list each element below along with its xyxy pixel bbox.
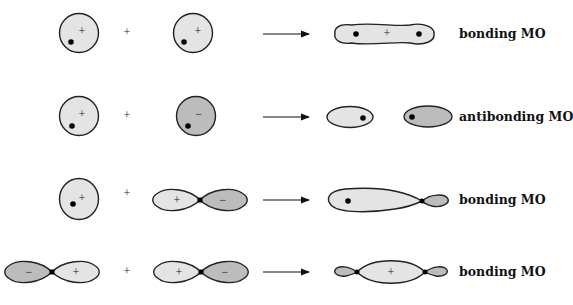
phase-sign: + xyxy=(79,107,86,121)
bonding-mo-shape: + xyxy=(335,261,448,284)
s-orbital-right: − xyxy=(177,97,216,136)
mo-label-row-3: bonding MO xyxy=(459,192,546,207)
nucleus-icon xyxy=(181,39,187,45)
nucleus-icon xyxy=(199,270,204,275)
phase-sign: + xyxy=(384,26,391,40)
s-orbital-left: + xyxy=(60,179,99,220)
row-1: + + + + xyxy=(60,14,435,53)
plus-operator: + xyxy=(124,25,131,39)
nucleus-icon xyxy=(345,198,351,204)
mo-label-row-2: antibonding MO xyxy=(459,109,573,124)
phase-sign: + xyxy=(388,265,395,279)
row-4: − + + + − + xyxy=(5,261,448,284)
antibonding-mo-shape xyxy=(327,106,452,128)
phase-sign: + xyxy=(176,265,183,279)
phase-sign: − xyxy=(220,193,227,207)
nucleus-icon xyxy=(420,199,425,204)
nucleus-icon xyxy=(198,198,203,203)
phase-sign: + xyxy=(73,265,80,279)
phase-sign: + xyxy=(174,193,181,207)
phase-sign: − xyxy=(222,265,229,279)
plus-operator: + xyxy=(124,108,131,122)
p-orbital-right: + − xyxy=(154,261,249,282)
nucleus-icon xyxy=(409,114,415,120)
s-orbital-left: + xyxy=(60,14,99,53)
row-2: + + − xyxy=(60,97,453,136)
phase-sign: − xyxy=(26,265,33,279)
nucleus-icon xyxy=(185,123,191,129)
nucleus-icon xyxy=(50,270,55,275)
nucleus-icon xyxy=(355,270,360,275)
phase-sign: + xyxy=(79,191,86,205)
phase-sign: − xyxy=(196,107,203,121)
mo-label-row-4: bonding MO xyxy=(459,264,546,279)
plus-operator: + xyxy=(124,186,131,200)
plus-operator: + xyxy=(124,264,131,278)
s-orbital-right: + xyxy=(174,14,213,53)
mo-label-row-1: bonding MO xyxy=(459,26,546,41)
row-3: + + + − xyxy=(60,179,449,220)
nucleus-icon xyxy=(416,31,422,37)
p-orbital-left: − + xyxy=(5,261,100,282)
nucleus-icon xyxy=(360,115,366,121)
nucleus-icon xyxy=(68,39,74,45)
p-orbital-right: + − xyxy=(153,189,248,210)
nucleus-icon xyxy=(423,270,428,275)
nucleus-icon xyxy=(69,123,75,129)
s-orbital-left: + xyxy=(60,97,99,136)
bonding-mo-shape: + xyxy=(335,24,434,44)
nucleus-icon xyxy=(70,201,76,207)
phase-sign: + xyxy=(79,24,86,38)
nucleus-icon xyxy=(353,31,359,37)
phase-sign: + xyxy=(195,24,202,38)
bonding-mo-shape xyxy=(328,188,448,212)
